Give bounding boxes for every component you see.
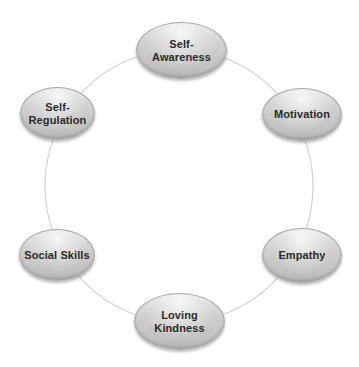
node-label: Self- Awareness (152, 38, 211, 64)
cycle-diagram: Self- Awareness Motivation Empathy Lovin… (0, 0, 359, 367)
node-social-skills[interactable]: Social Skills (19, 229, 95, 281)
node-label: Social Skills (24, 249, 90, 262)
node-label: Empathy (278, 249, 325, 262)
node-loving-kindness[interactable]: Loving Kindness (134, 293, 225, 350)
node-empathy[interactable]: Empathy (262, 228, 342, 283)
node-self-regulation[interactable]: Self- Regulation (20, 87, 95, 140)
node-self-awareness[interactable]: Self- Awareness (136, 22, 227, 79)
node-label: Loving Kindness (154, 309, 204, 335)
node-motivation[interactable]: Motivation (262, 88, 342, 141)
node-label: Motivation (274, 108, 330, 121)
node-label: Self- Regulation (29, 101, 87, 127)
